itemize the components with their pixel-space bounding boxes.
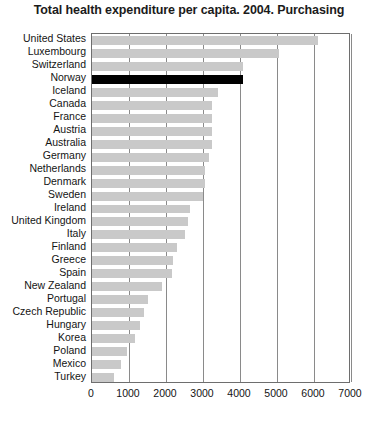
category-label-switzerland: Switzerland	[32, 59, 86, 70]
bar-iceland	[92, 88, 218, 97]
bar-canada	[92, 101, 212, 110]
bars-layer	[92, 34, 349, 382]
bar-row	[92, 75, 349, 84]
bar-row	[92, 153, 349, 162]
bar-row	[92, 269, 349, 278]
bar-greece	[92, 256, 173, 265]
bar-new-zealand	[92, 282, 162, 291]
bar-row	[92, 49, 349, 58]
bar-row	[92, 373, 349, 382]
bar-luxembourg	[92, 49, 279, 58]
category-label-finland: Finland	[52, 241, 86, 252]
bar-row	[92, 179, 349, 188]
category-label-norway: Norway	[50, 72, 86, 83]
bar-row	[92, 282, 349, 291]
bar-row	[92, 140, 349, 149]
bar-row	[92, 347, 349, 356]
bar-poland	[92, 347, 127, 356]
bar-row	[92, 101, 349, 110]
category-label-united-kingdom: United Kingdom	[11, 215, 86, 226]
chart-title: Total health expenditure per capita. 200…	[0, 3, 378, 17]
bar-korea	[92, 334, 135, 343]
x-tick-label-6000: 6000	[301, 387, 324, 399]
health-expenditure-bar-chart: Total health expenditure per capita. 200…	[0, 0, 378, 423]
category-label-spain: Spain	[59, 267, 86, 278]
x-tick-label-7000: 7000	[338, 387, 361, 399]
bar-row	[92, 360, 349, 369]
category-label-ireland: Ireland	[54, 202, 86, 213]
category-label-australia: Australia	[45, 137, 86, 148]
category-label-iceland: Iceland	[52, 85, 86, 96]
bar-mexico	[92, 360, 121, 369]
category-label-france: France	[53, 111, 86, 122]
bar-netherlands	[92, 166, 205, 175]
x-tick-label-0: 0	[88, 387, 94, 399]
bar-ireland	[92, 205, 190, 214]
bar-denmark	[92, 179, 205, 188]
bar-row	[92, 243, 349, 252]
bar-row	[92, 62, 349, 71]
category-label-netherlands: Netherlands	[29, 163, 86, 174]
bar-turkey	[92, 373, 114, 382]
x-tick-label-3000: 3000	[190, 387, 213, 399]
bar-row	[92, 205, 349, 214]
category-label-greece: Greece	[52, 254, 86, 265]
bar-row	[92, 321, 349, 330]
bar-switzerland	[92, 62, 243, 71]
category-label-luxembourg: Luxembourg	[28, 46, 86, 57]
x-axis-tick-labels: 01000200030004000500060007000	[0, 387, 378, 403]
bar-spain	[92, 269, 172, 278]
bar-finland	[92, 243, 177, 252]
bar-row	[92, 230, 349, 239]
category-label-czech-republic: Czech Republic	[12, 306, 86, 317]
x-tick-label-4000: 4000	[227, 387, 250, 399]
bar-row	[92, 127, 349, 136]
x-tick-label-2000: 2000	[153, 387, 176, 399]
bar-row	[92, 334, 349, 343]
category-label-portugal: Portugal	[47, 293, 86, 304]
x-tick-label-1000: 1000	[116, 387, 139, 399]
category-label-turkey: Turkey	[54, 371, 86, 382]
bar-france	[92, 114, 212, 123]
category-label-united-states: United States	[23, 33, 86, 44]
bar-united-kingdom	[92, 217, 188, 226]
bar-germany	[92, 153, 209, 162]
category-label-sweden: Sweden	[48, 189, 86, 200]
bar-norway	[92, 75, 243, 84]
bar-austria	[92, 127, 212, 136]
bar-row	[92, 308, 349, 317]
bar-australia	[92, 140, 212, 149]
bar-italy	[92, 230, 185, 239]
x-tick-label-5000: 5000	[264, 387, 287, 399]
gridline-7000	[351, 34, 352, 382]
bar-row	[92, 114, 349, 123]
bar-row	[92, 88, 349, 97]
category-label-denmark: Denmark	[43, 176, 86, 187]
bar-row	[92, 217, 349, 226]
category-label-italy: Italy	[67, 228, 86, 239]
category-label-mexico: Mexico	[53, 358, 86, 369]
category-label-austria: Austria	[53, 124, 86, 135]
bar-united-states	[92, 36, 318, 45]
plot-area	[91, 33, 350, 383]
bar-czech-republic	[92, 308, 144, 317]
bar-row	[92, 36, 349, 45]
bar-sweden	[92, 192, 203, 201]
category-label-germany: Germany	[43, 150, 86, 161]
category-label-hungary: Hungary	[46, 319, 86, 330]
category-label-poland: Poland	[53, 345, 86, 356]
category-label-canada: Canada	[49, 98, 86, 109]
bar-row	[92, 192, 349, 201]
bar-row	[92, 166, 349, 175]
category-label-korea: Korea	[58, 332, 86, 343]
category-label-new-zealand: New Zealand	[24, 280, 86, 291]
bar-row	[92, 256, 349, 265]
bar-row	[92, 295, 349, 304]
bar-hungary	[92, 321, 140, 330]
bar-portugal	[92, 295, 148, 304]
category-axis-labels: United StatesLuxembourgSwitzerlandNorway…	[0, 33, 89, 383]
